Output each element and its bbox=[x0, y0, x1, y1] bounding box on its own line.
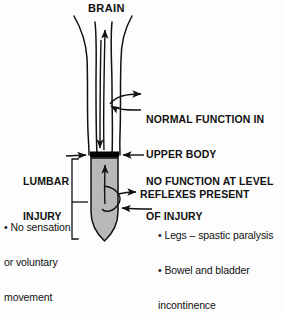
bullet-bowel-bladder-line1: • Bowel and bladder bbox=[158, 265, 273, 277]
ascending-tract-arrow-to-brain bbox=[104, 30, 105, 150]
arrow-out-upper bbox=[110, 94, 141, 104]
label-no-function-line1: NO FUNCTION AT LEVEL bbox=[146, 176, 273, 188]
label-no-sensation-line3: movement bbox=[4, 292, 70, 304]
upper-body-arrow-group bbox=[110, 94, 141, 110]
arrow-in-upper bbox=[111, 106, 141, 110]
cord-outline-group bbox=[74, 16, 132, 155]
cord-edge-right-inner bbox=[111, 22, 112, 155]
label-no-sensation: • No sensation or voluntary movement bbox=[4, 198, 70, 313]
bullet-bowel-bladder-line2: incontinence bbox=[158, 300, 273, 312]
injury-bar bbox=[90, 152, 119, 158]
label-no-sensation-line1: • No sensation bbox=[4, 222, 70, 234]
label-lower-body-effects: • Legs – spastic paralysis • Bowel and b… bbox=[158, 206, 273, 313]
cord-edge-right-outer bbox=[120, 16, 132, 155]
label-brain: BRAIN bbox=[88, 2, 125, 14]
arrow-reflex-out bbox=[118, 192, 136, 194]
bullet-legs-spastic-paralysis: • Legs – spastic paralysis bbox=[158, 230, 273, 242]
label-lumbar-injury-line1: LUMBAR bbox=[23, 176, 69, 188]
cord-edge-left-inner bbox=[95, 22, 97, 155]
label-no-sensation-line2: or voluntary bbox=[4, 257, 70, 269]
label-reflexes-present: REFLEXES PRESENT bbox=[140, 189, 250, 201]
label-normal-function-line1: NORMAL FUNCTION IN bbox=[146, 114, 264, 126]
internal-tract-arrows bbox=[100, 30, 105, 150]
lower-cord-bracket bbox=[72, 159, 78, 239]
descending-tract-arrow-down bbox=[100, 40, 101, 148]
cord-edge-left-outer bbox=[74, 16, 89, 155]
